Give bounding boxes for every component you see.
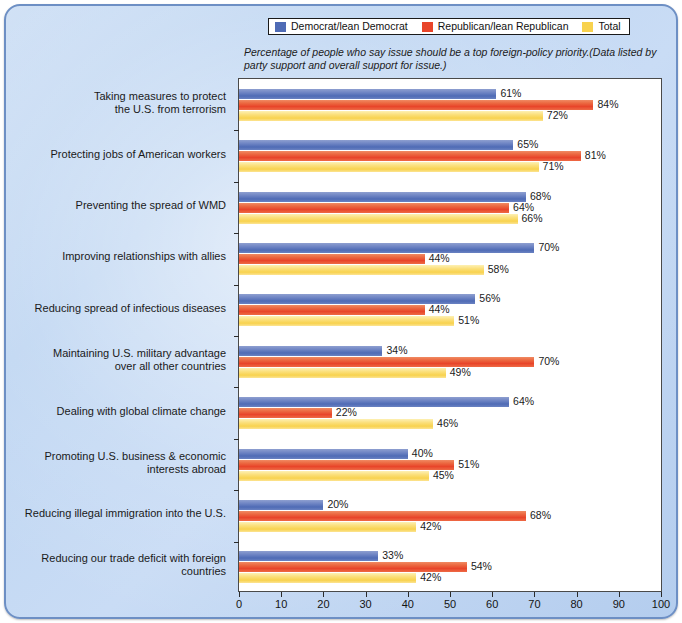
x-axis: 0102030405060708090100 [238, 592, 662, 616]
bar-row: 51% [239, 316, 661, 326]
bar-row: 45% [239, 471, 661, 481]
x-axis-tick-label: 80 [570, 598, 582, 611]
y-axis-tick [234, 439, 239, 440]
y-axis-category-line: Taking measures to protect [6, 90, 226, 103]
y-axis-category-line: Promoting U.S. business & economic [6, 450, 226, 463]
bar-row: 66% [239, 214, 661, 224]
bar-republican[interactable] [239, 151, 581, 161]
y-axis-category-label: Dealing with global climate change [6, 405, 226, 418]
bar-total[interactable] [239, 522, 416, 532]
x-axis-tick [323, 592, 324, 597]
x-axis-tick [450, 592, 451, 597]
x-axis-tick [619, 592, 620, 597]
bar-value-label: 51% [458, 458, 479, 471]
bar-row: 46% [239, 419, 661, 429]
y-axis-category-line: Improving relationships with allies [6, 250, 226, 263]
y-axis-category-line: Preventing the spread of WMD [6, 199, 226, 212]
bar-total[interactable] [239, 419, 433, 429]
bar-value-label: 44% [429, 252, 450, 265]
bar-row: 42% [239, 522, 661, 532]
x-axis-tick-label: 0 [236, 598, 242, 611]
bar-democrat[interactable] [239, 192, 526, 202]
legend-swatch-icon [582, 22, 593, 32]
bar-row: 71% [239, 162, 661, 172]
bar-total[interactable] [239, 573, 416, 583]
bar-republican[interactable] [239, 203, 509, 213]
bar-republican[interactable] [239, 460, 454, 470]
bar-value-label: 68% [530, 509, 551, 522]
bar-democrat[interactable] [239, 500, 323, 510]
bar-total[interactable] [239, 265, 484, 275]
bar-value-label: 66% [522, 212, 543, 225]
x-axis-tick [366, 592, 367, 597]
bar-row: 56% [239, 294, 661, 304]
bar-row: 68% [239, 511, 661, 521]
bar-value-label: 54% [471, 560, 492, 573]
bar-row: 70% [239, 243, 661, 253]
bar-value-label: 56% [479, 292, 500, 305]
legend-item[interactable]: Democrat/lean Democrat [275, 21, 408, 32]
bar-democrat[interactable] [239, 397, 509, 407]
x-axis-tick-label: 70 [528, 598, 540, 611]
bar-value-label: 72% [547, 109, 568, 122]
x-axis-tick [239, 592, 240, 597]
bar-republican[interactable] [239, 305, 425, 315]
bar-row: 34% [239, 346, 661, 356]
bar-value-label: 45% [433, 469, 454, 482]
legend-swatch-icon [422, 22, 433, 32]
x-axis-tick-label: 60 [486, 598, 498, 611]
bar-democrat[interactable] [239, 346, 382, 356]
x-axis-tick [492, 592, 493, 597]
y-axis-category-label: Taking measures to protectthe U.S. from … [6, 90, 226, 116]
y-axis-category-label: Preventing the spread of WMD [6, 199, 226, 212]
bar-value-label: 71% [543, 160, 564, 173]
bar-republican[interactable] [239, 254, 425, 264]
y-axis-category-label: Maintaining U.S. military advantageover … [6, 347, 226, 373]
bar-row: 54% [239, 562, 661, 572]
y-axis-category-label: Reducing spread of infectious diseases [6, 302, 226, 315]
x-axis-tick-label: 10 [275, 598, 287, 611]
y-axis-category-line: Reducing our trade deficit with foreign [6, 552, 226, 565]
bar-democrat[interactable] [239, 243, 534, 253]
y-axis-category-label: Improving relationships with allies [6, 250, 226, 263]
chart-panel: Democrat/lean DemocratRepublican/lean Re… [4, 4, 678, 619]
x-axis-tick [661, 592, 662, 597]
legend-label: Republican/lean Republican [438, 21, 569, 32]
bar-total[interactable] [239, 162, 539, 172]
bar-democrat[interactable] [239, 449, 408, 459]
bar-value-label: 51% [458, 314, 479, 327]
bar-total[interactable] [239, 111, 543, 121]
bar-republican[interactable] [239, 408, 332, 418]
bar-total[interactable] [239, 316, 454, 326]
bar-row: 81% [239, 151, 661, 161]
bar-republican[interactable] [239, 511, 526, 521]
bar-value-label: 70% [538, 355, 559, 368]
bar-total[interactable] [239, 471, 429, 481]
y-axis-category-line: Reducing illegal immigration into the U.… [6, 507, 226, 520]
bar-value-label: 70% [538, 241, 559, 254]
y-axis-category-line: the U.S. from terrorism [6, 103, 226, 116]
x-axis-tick-label: 90 [613, 598, 625, 611]
bar-democrat[interactable] [239, 89, 496, 99]
bar-republican[interactable] [239, 357, 534, 367]
y-axis-tick [234, 336, 239, 337]
bar-row: 42% [239, 573, 661, 583]
bar-row: 84% [239, 100, 661, 110]
x-axis-tick [408, 592, 409, 597]
y-axis-category-line: over all other countries [6, 360, 226, 373]
bar-value-label: 33% [382, 549, 403, 562]
legend-item[interactable]: Republican/lean Republican [422, 21, 569, 32]
bar-total[interactable] [239, 368, 446, 378]
bar-value-label: 49% [450, 366, 471, 379]
bar-democrat[interactable] [239, 551, 378, 561]
plot-area: 61%84%72%65%81%71%68%64%66%70%44%58%56%4… [238, 78, 662, 592]
bar-value-label: 20% [327, 498, 348, 511]
y-axis-category-line: interests abroad [6, 463, 226, 476]
bar-democrat[interactable] [239, 140, 513, 150]
bar-row: 68% [239, 192, 661, 202]
legend-item[interactable]: Total [582, 21, 620, 32]
bar-value-label: 42% [420, 520, 441, 533]
legend-swatch-icon [275, 22, 286, 32]
bar-republican[interactable] [239, 100, 593, 110]
bar-total[interactable] [239, 214, 518, 224]
